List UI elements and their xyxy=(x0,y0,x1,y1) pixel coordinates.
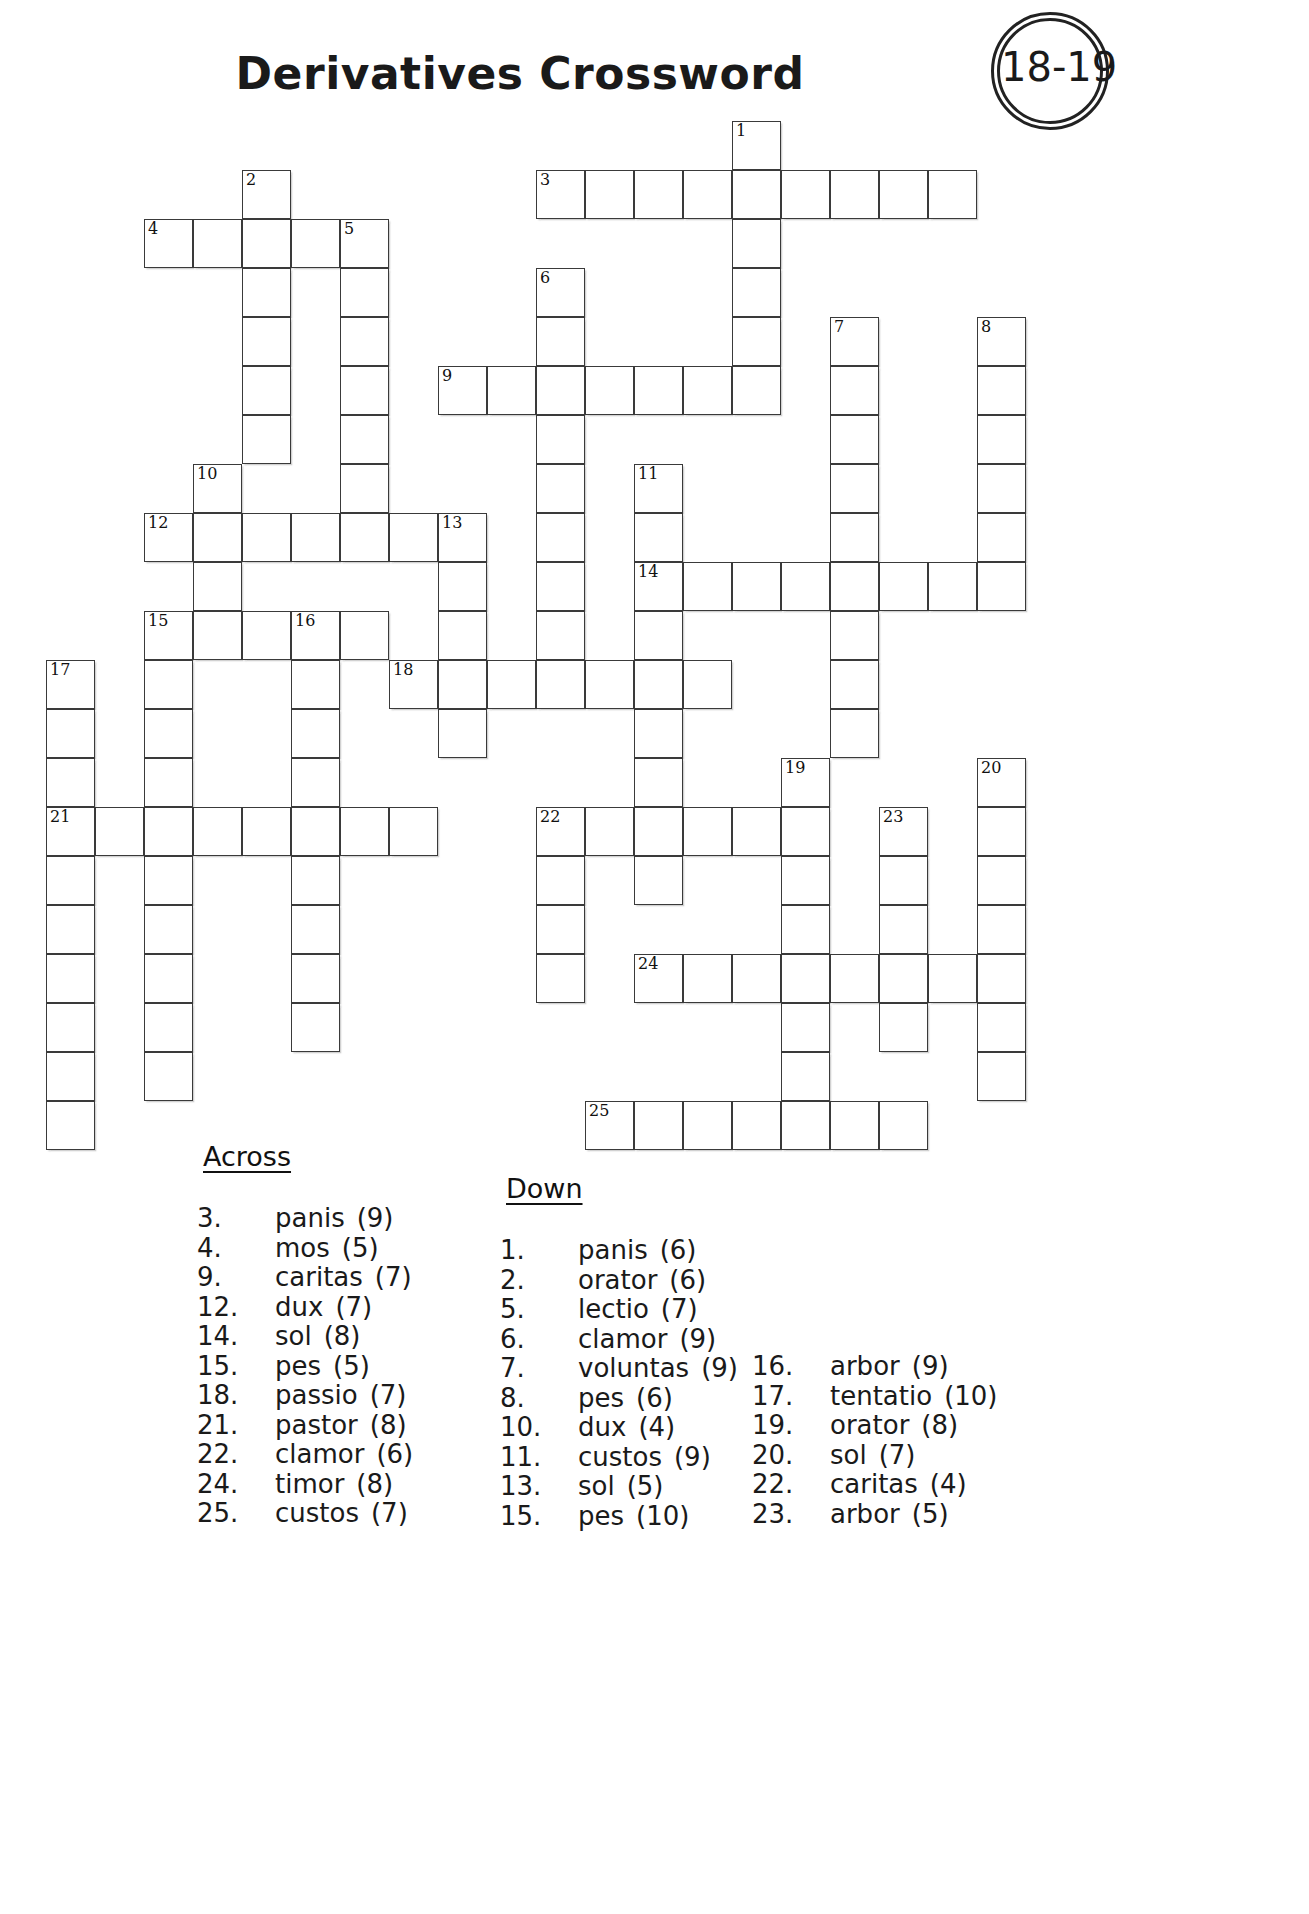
crossword-cell[interactable] xyxy=(830,464,879,513)
crossword-cell[interactable] xyxy=(634,709,683,758)
crossword-cell[interactable] xyxy=(781,1003,830,1052)
crossword-cell[interactable] xyxy=(340,611,389,660)
crossword-cell[interactable] xyxy=(879,562,928,611)
crossword-cell[interactable] xyxy=(340,268,389,317)
crossword-cell-start-17[interactable]: 17 xyxy=(46,660,95,709)
crossword-cell[interactable] xyxy=(291,807,340,856)
crossword-cell[interactable] xyxy=(977,905,1026,954)
crossword-cell-start-18[interactable]: 18 xyxy=(389,660,438,709)
crossword-cell-start-20[interactable]: 20 xyxy=(977,758,1026,807)
crossword-cell[interactable] xyxy=(977,513,1026,562)
crossword-cell[interactable] xyxy=(144,856,193,905)
crossword-cell[interactable] xyxy=(977,415,1026,464)
crossword-cell[interactable] xyxy=(732,1101,781,1150)
crossword-cell[interactable] xyxy=(389,807,438,856)
crossword-cell[interactable] xyxy=(683,954,732,1003)
crossword-cell[interactable] xyxy=(732,562,781,611)
crossword-cell[interactable] xyxy=(536,856,585,905)
crossword-cell[interactable] xyxy=(193,807,242,856)
crossword-cell[interactable] xyxy=(977,366,1026,415)
crossword-cell[interactable] xyxy=(144,709,193,758)
crossword-cell[interactable] xyxy=(242,268,291,317)
crossword-cell-start-5[interactable]: 5 xyxy=(340,219,389,268)
crossword-cell-start-10[interactable]: 10 xyxy=(193,464,242,513)
crossword-cell[interactable] xyxy=(977,807,1026,856)
crossword-cell[interactable] xyxy=(977,1003,1026,1052)
crossword-cell[interactable] xyxy=(46,758,95,807)
crossword-cell-start-2[interactable]: 2 xyxy=(242,170,291,219)
crossword-cell[interactable] xyxy=(830,954,879,1003)
crossword-cell[interactable] xyxy=(242,415,291,464)
crossword-cell[interactable] xyxy=(536,317,585,366)
crossword-cell[interactable] xyxy=(781,1101,830,1150)
crossword-cell[interactable] xyxy=(438,562,487,611)
crossword-cell[interactable] xyxy=(634,513,683,562)
crossword-cell[interactable] xyxy=(389,513,438,562)
crossword-cell[interactable] xyxy=(830,660,879,709)
crossword-cell[interactable] xyxy=(879,170,928,219)
crossword-cell[interactable] xyxy=(830,513,879,562)
crossword-cell[interactable] xyxy=(536,513,585,562)
crossword-cell[interactable] xyxy=(585,807,634,856)
crossword-cell-start-13[interactable]: 13 xyxy=(438,513,487,562)
crossword-cell-start-6[interactable]: 6 xyxy=(536,268,585,317)
crossword-cell[interactable] xyxy=(487,366,536,415)
crossword-cell[interactable] xyxy=(242,317,291,366)
crossword-cell-start-15[interactable]: 15 xyxy=(144,611,193,660)
crossword-cell[interactable] xyxy=(683,1101,732,1150)
crossword-cell[interactable] xyxy=(977,464,1026,513)
crossword-cell[interactable] xyxy=(732,170,781,219)
crossword-cell[interactable] xyxy=(438,611,487,660)
crossword-cell-start-9[interactable]: 9 xyxy=(438,366,487,415)
crossword-cell[interactable] xyxy=(732,366,781,415)
crossword-cell[interactable] xyxy=(144,905,193,954)
crossword-cell[interactable] xyxy=(781,170,830,219)
crossword-cell[interactable] xyxy=(46,1101,95,1150)
crossword-cell[interactable] xyxy=(781,1052,830,1101)
crossword-cell[interactable] xyxy=(291,905,340,954)
crossword-cell[interactable] xyxy=(879,954,928,1003)
crossword-cell-start-16[interactable]: 16 xyxy=(291,611,340,660)
crossword-cell[interactable] xyxy=(977,1052,1026,1101)
crossword-cell[interactable] xyxy=(732,219,781,268)
crossword-cell[interactable] xyxy=(193,611,242,660)
crossword-cell[interactable] xyxy=(683,660,732,709)
crossword-cell[interactable] xyxy=(291,758,340,807)
crossword-cell[interactable] xyxy=(536,611,585,660)
crossword-cell[interactable] xyxy=(340,415,389,464)
crossword-cell[interactable] xyxy=(928,562,977,611)
crossword-cell-start-22[interactable]: 22 xyxy=(536,807,585,856)
crossword-cell[interactable] xyxy=(144,954,193,1003)
crossword-cell[interactable] xyxy=(536,660,585,709)
crossword-cell[interactable] xyxy=(830,415,879,464)
crossword-cell-start-14[interactable]: 14 xyxy=(634,562,683,611)
crossword-cell[interactable] xyxy=(536,464,585,513)
crossword-cell-start-11[interactable]: 11 xyxy=(634,464,683,513)
crossword-cell-start-21[interactable]: 21 xyxy=(46,807,95,856)
crossword-cell[interactable] xyxy=(193,219,242,268)
crossword-cell[interactable] xyxy=(46,954,95,1003)
crossword-cell-start-12[interactable]: 12 xyxy=(144,513,193,562)
crossword-cell[interactable] xyxy=(732,268,781,317)
crossword-cell-start-23[interactable]: 23 xyxy=(879,807,928,856)
crossword-cell[interactable] xyxy=(242,611,291,660)
crossword-cell[interactable] xyxy=(95,807,144,856)
crossword-cell[interactable] xyxy=(242,807,291,856)
crossword-cell[interactable] xyxy=(340,807,389,856)
crossword-cell[interactable] xyxy=(781,807,830,856)
crossword-cell[interactable] xyxy=(46,1003,95,1052)
crossword-cell[interactable] xyxy=(536,415,585,464)
crossword-cell[interactable] xyxy=(242,513,291,562)
crossword-cell[interactable] xyxy=(144,758,193,807)
crossword-cell-start-8[interactable]: 8 xyxy=(977,317,1026,366)
crossword-cell[interactable] xyxy=(46,856,95,905)
crossword-cell[interactable] xyxy=(634,170,683,219)
crossword-cell[interactable] xyxy=(438,709,487,758)
crossword-cell[interactable] xyxy=(634,856,683,905)
crossword-cell-start-25[interactable]: 25 xyxy=(585,1101,634,1150)
crossword-cell[interactable] xyxy=(830,709,879,758)
crossword-cell-start-1[interactable]: 1 xyxy=(732,121,781,170)
crossword-cell[interactable] xyxy=(928,170,977,219)
crossword-cell[interactable] xyxy=(830,1101,879,1150)
crossword-cell[interactable] xyxy=(634,366,683,415)
